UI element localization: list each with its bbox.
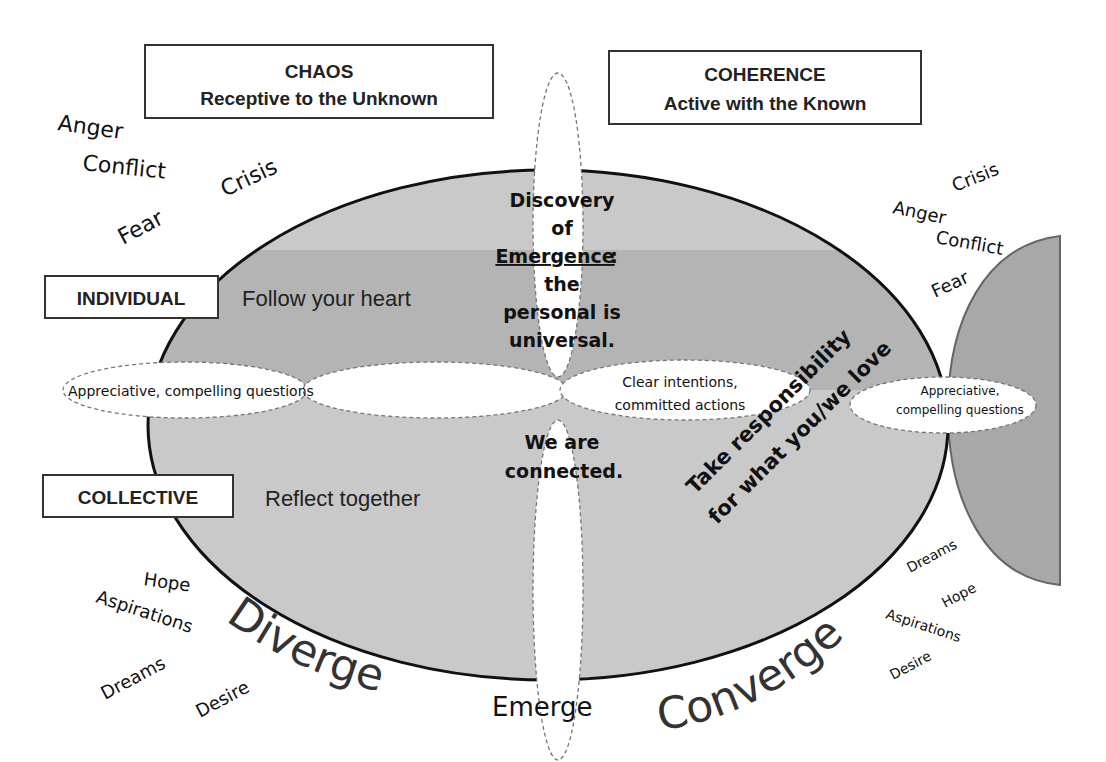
word-conflict: Conflict xyxy=(81,150,167,184)
collective-label: COLLECTIVE xyxy=(78,487,198,508)
word-desire-right: Desire xyxy=(887,648,934,683)
word-fear-right: Fear xyxy=(928,266,973,302)
word-aspirations-right: Aspirations xyxy=(884,606,963,645)
individual-label: INDIVIDUAL xyxy=(77,288,186,309)
petal-right-line1: Appreciative, xyxy=(920,384,999,398)
center-line-connected: connected. xyxy=(505,460,623,482)
word-crisis: Crisis xyxy=(217,154,282,202)
collective-label-box: COLLECTIVE xyxy=(43,475,233,517)
right-bottom-words: Dreams Hope Aspirations Desire xyxy=(884,536,979,683)
left-top-words: Anger Conflict Crisis Fear xyxy=(56,110,281,249)
center-line-universal: universal. xyxy=(509,329,615,351)
chaos-header-box: CHAOS Receptive to the Unknown xyxy=(145,45,493,118)
petal-middle-line1: Clear intentions, xyxy=(622,374,737,390)
individual-text: Follow your heart xyxy=(242,286,411,311)
word-dreams-right: Dreams xyxy=(904,536,960,576)
emergence-diagram: CHAOS Receptive to the Unknown COHERENCE… xyxy=(0,0,1106,762)
petal-left-text: Appreciative, compelling questions xyxy=(68,383,314,399)
word-conflict-right: Conflict xyxy=(934,226,1005,259)
petal-middle-line2: committed actions xyxy=(615,397,746,413)
phase-emerge: Emerge xyxy=(492,692,592,722)
center-line-colon: : xyxy=(610,245,618,267)
center-line-we-are: We are xyxy=(525,431,600,453)
center-line-personal: personal is xyxy=(503,301,621,323)
word-anger: Anger xyxy=(56,110,125,144)
collective-text: Reflect together xyxy=(265,486,420,511)
left-bottom-words: Hope Aspirations Dreams Desire xyxy=(94,568,253,721)
word-crisis-right: Crisis xyxy=(949,158,1002,196)
petal-right-line2: compelling questions xyxy=(896,403,1024,417)
individual-label-box: INDIVIDUAL xyxy=(45,276,218,318)
center-line-of: of xyxy=(551,217,573,239)
word-anger-right: Anger xyxy=(891,196,948,228)
center-line-emergence: Emergence xyxy=(495,245,614,267)
word-dreams: Dreams xyxy=(97,652,169,703)
center-line-the: the xyxy=(544,273,580,295)
word-hope: Hope xyxy=(142,568,192,595)
chaos-title: CHAOS xyxy=(285,61,354,82)
coherence-header-box: COHERENCE Active with the Known xyxy=(609,51,921,124)
petal-left-inner xyxy=(303,362,567,418)
center-line-discovery: Discovery xyxy=(510,189,616,211)
word-desire: Desire xyxy=(192,676,253,721)
coherence-title: COHERENCE xyxy=(704,64,825,85)
word-hope-right: Hope xyxy=(939,579,979,610)
chaos-subtitle: Receptive to the Unknown xyxy=(200,88,438,109)
word-fear: Fear xyxy=(114,205,169,250)
coherence-subtitle: Active with the Known xyxy=(664,93,867,114)
